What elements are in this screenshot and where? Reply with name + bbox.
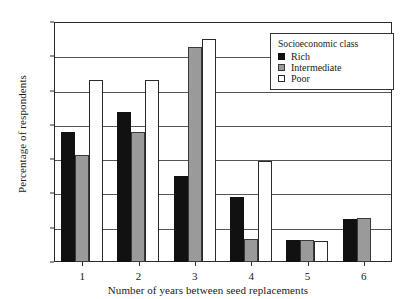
bar-poor-3 xyxy=(202,39,216,262)
x-tick-label: 3 xyxy=(175,270,215,282)
x-tick-mark xyxy=(308,262,309,266)
legend-label: Rich xyxy=(291,51,310,62)
bar-intermediate-1 xyxy=(75,155,89,262)
bar-intermediate-3 xyxy=(188,47,202,262)
bar-poor-5 xyxy=(314,241,328,262)
legend-swatch-icon xyxy=(278,53,285,60)
legend-entries: RichIntermediatePoor xyxy=(278,51,388,84)
legend-swatch-icon xyxy=(278,64,285,71)
bar-rich-4 xyxy=(230,197,244,262)
x-tick-label: 4 xyxy=(231,270,271,282)
x-axis-title: Number of years between seed replacement… xyxy=(0,284,416,296)
bar-intermediate-2 xyxy=(131,132,145,262)
bar-chart: Percentage of respondents 05101520253035… xyxy=(0,0,416,299)
bar-poor-4 xyxy=(258,161,272,262)
x-tick-mark xyxy=(364,262,365,266)
bar-intermediate-5 xyxy=(300,240,314,262)
y-axis-title: Percentage of respondents xyxy=(16,34,28,234)
bar-rich-3 xyxy=(174,176,188,262)
legend: Socioeconomic class RichIntermediatePoor xyxy=(270,33,394,90)
bar-poor-2 xyxy=(145,80,159,262)
legend-label: Poor xyxy=(291,73,310,84)
legend-entry-rich: Rich xyxy=(278,51,388,62)
x-tick-mark xyxy=(195,262,196,266)
bar-group xyxy=(54,22,110,262)
bar-rich-1 xyxy=(61,132,75,262)
bar-poor-1 xyxy=(89,80,103,262)
x-tick-label: 6 xyxy=(344,270,384,282)
x-tick-mark xyxy=(82,262,83,266)
bar-intermediate-4 xyxy=(244,239,258,262)
legend-entry-intermediate: Intermediate xyxy=(278,62,388,73)
bar-rich-2 xyxy=(117,112,131,262)
x-tick-mark xyxy=(251,262,252,266)
legend-title: Socioeconomic class xyxy=(278,38,388,49)
legend-label: Intermediate xyxy=(291,62,342,73)
x-tick-mark xyxy=(139,262,140,266)
bar-rich-6 xyxy=(343,219,357,262)
x-tick-label: 1 xyxy=(62,270,102,282)
bar-rich-5 xyxy=(286,240,300,262)
legend-entry-poor: Poor xyxy=(278,73,388,84)
bar-group xyxy=(167,22,223,262)
x-tick-label: 2 xyxy=(119,270,159,282)
bar-group xyxy=(110,22,166,262)
bar-intermediate-6 xyxy=(357,218,371,262)
legend-swatch-icon xyxy=(278,75,285,82)
x-tick-label: 5 xyxy=(288,270,328,282)
